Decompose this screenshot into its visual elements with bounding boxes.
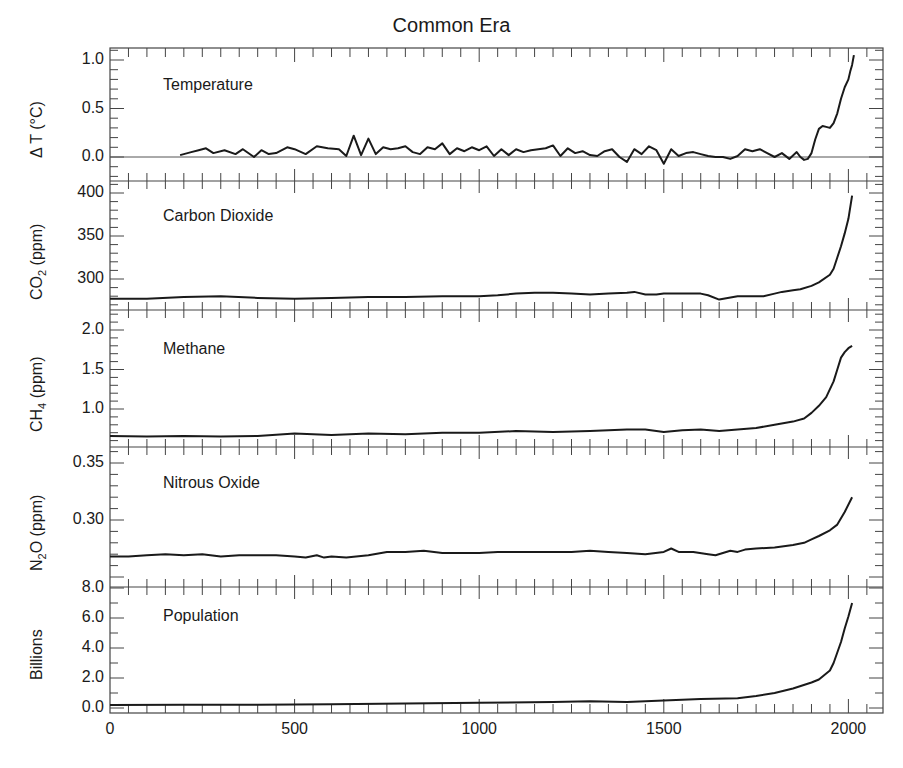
y-tick-label: 400 <box>44 183 104 201</box>
ylabel-n2o: N2O (ppm) <box>28 495 48 571</box>
y-tick-label: 0.5 <box>44 99 104 117</box>
x-tick-label: 500 <box>265 720 325 738</box>
x-tick-label: 1000 <box>449 720 509 738</box>
panel-label-n2o: Nitrous Oxide <box>163 474 260 492</box>
y-tick-label: 0.35 <box>44 453 104 471</box>
y-tick-label: 2.0 <box>44 668 104 686</box>
x-tick-label: 1500 <box>634 720 694 738</box>
y-tick-label: 350 <box>44 226 104 244</box>
y-tick-label: 0.0 <box>44 698 104 716</box>
y-tick-label: 0.30 <box>44 510 104 528</box>
series-line-3 <box>110 497 852 557</box>
x-tick-label: 0 <box>80 720 140 738</box>
panel-label-population: Population <box>163 607 239 625</box>
panel-label-temperature: Temperature <box>163 76 253 94</box>
series-line-0 <box>180 55 854 164</box>
y-tick-label: 6.0 <box>44 608 104 626</box>
panel-label-co2: Carbon Dioxide <box>163 207 273 225</box>
y-tick-label: 300 <box>44 269 104 287</box>
y-tick-label: 1.0 <box>44 399 104 417</box>
x-tick-label: 2000 <box>818 720 878 738</box>
y-tick-label: 1.0 <box>44 50 104 68</box>
chart-title: Common Era <box>0 14 903 37</box>
series-line-2 <box>110 346 852 437</box>
y-tick-label: 0.0 <box>44 147 104 165</box>
y-tick-label: 2.0 <box>44 320 104 338</box>
y-tick-label: 8.0 <box>44 578 104 596</box>
chart-canvas <box>0 0 903 768</box>
panel-label-methane: Methane <box>163 340 225 358</box>
y-tick-label: 1.5 <box>44 360 104 378</box>
y-tick-label: 4.0 <box>44 638 104 656</box>
